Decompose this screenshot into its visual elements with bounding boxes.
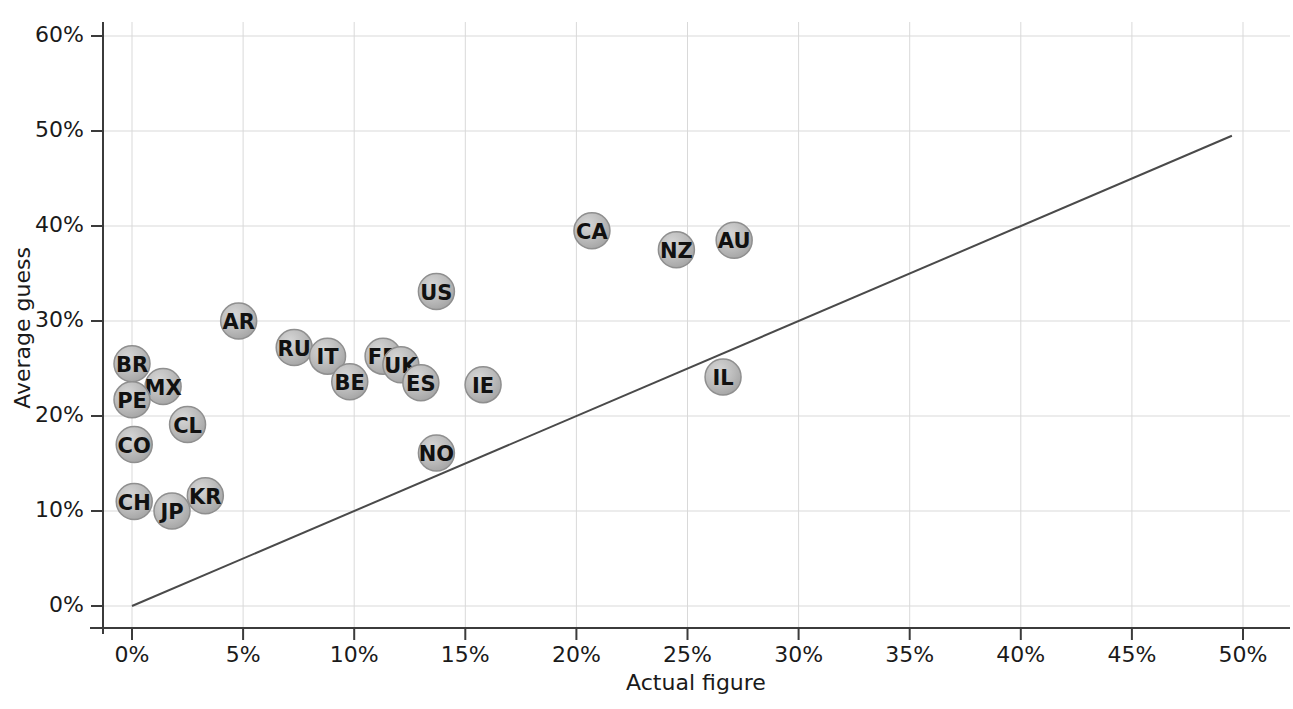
x-tick-label: 50% xyxy=(1219,642,1268,667)
data-point[interactable]: NO xyxy=(418,435,454,471)
data-point-label: AU xyxy=(718,229,751,253)
x-tick-marks xyxy=(132,628,1243,640)
data-point-label: CH xyxy=(118,491,151,515)
x-tick-label: 30% xyxy=(774,642,823,667)
data-point[interactable]: CA xyxy=(574,213,610,249)
data-point-label: NO xyxy=(419,442,454,466)
x-tick-label: 35% xyxy=(885,642,934,667)
data-point[interactable]: PE xyxy=(114,382,150,418)
data-point-label: PE xyxy=(117,389,147,413)
data-point-label: IE xyxy=(472,374,494,398)
data-point[interactable]: KR xyxy=(187,478,223,514)
y-axis-title: Average guess xyxy=(10,247,35,409)
data-point[interactable]: BE xyxy=(332,364,368,400)
x-tick-label: 15% xyxy=(441,642,490,667)
y-tick-label: 10% xyxy=(35,497,84,522)
data-point-label: CL xyxy=(173,414,202,438)
x-tick-label: 5% xyxy=(226,642,261,667)
y-tick-marks xyxy=(91,36,103,606)
data-point-label: CA xyxy=(576,220,608,244)
data-point[interactable]: CO xyxy=(116,427,152,463)
data-point[interactable]: RU xyxy=(276,330,312,366)
data-point[interactable]: ES xyxy=(403,365,439,401)
data-point-label: RU xyxy=(278,337,311,361)
data-point[interactable]: AU xyxy=(716,222,752,258)
data-point-label: AR xyxy=(222,310,254,334)
y-tick-label: 50% xyxy=(35,117,84,142)
data-point[interactable]: IL xyxy=(705,359,741,395)
data-point-label: IT xyxy=(316,345,339,369)
data-point[interactable]: NZ xyxy=(658,232,694,268)
plot-area: 0%10%20%30%40%50%60% 0%5%10%15%20%25%30%… xyxy=(0,0,1293,709)
data-point[interactable]: CH xyxy=(116,484,152,520)
x-tick-labels: 0%5%10%15%20%25%30%35%40%45%50% xyxy=(115,642,1268,667)
data-point-label: JP xyxy=(158,500,183,524)
data-point-label: IL xyxy=(712,366,733,390)
data-point-markers: BRMXPECLCOCHKRJPARRUITBEFRUKESUSNOIECANZ… xyxy=(114,213,752,529)
y-tick-label: 30% xyxy=(35,307,84,332)
y-tick-label: 0% xyxy=(49,592,84,617)
x-tick-label: 40% xyxy=(996,642,1045,667)
chart-root: 0%10%20%30%40%50%60% 0%5%10%15%20%25%30%… xyxy=(0,0,1293,709)
data-point-label: BR xyxy=(116,353,148,377)
x-axis-title: Actual figure xyxy=(626,670,766,695)
data-point[interactable]: CL xyxy=(170,407,206,443)
y-gridlines xyxy=(103,36,1290,606)
x-tick-label: 0% xyxy=(115,642,150,667)
data-point[interactable]: JP xyxy=(154,493,190,529)
y-tick-label: 40% xyxy=(35,212,84,237)
data-point[interactable]: AR xyxy=(221,303,257,339)
y-tick-label: 20% xyxy=(35,402,84,427)
identity-reference-line xyxy=(132,136,1232,606)
data-point-label: NZ xyxy=(660,239,693,263)
y-tick-label: 60% xyxy=(35,22,84,47)
x-tick-label: 25% xyxy=(663,642,712,667)
scatter-chart-svg: 0%10%20%30%40%50%60% 0%5%10%15%20%25%30%… xyxy=(0,0,1293,709)
x-gridlines xyxy=(132,22,1243,628)
data-point-label: CO xyxy=(118,434,151,458)
x-tick-label: 45% xyxy=(1107,642,1156,667)
x-tick-label: 10% xyxy=(330,642,379,667)
data-point[interactable]: US xyxy=(418,274,454,310)
data-point-label: ES xyxy=(406,372,435,396)
y-tick-labels: 0%10%20%30%40%50%60% xyxy=(35,22,84,617)
x-tick-label: 20% xyxy=(552,642,601,667)
data-point-label: BE xyxy=(335,371,365,395)
data-point-label: US xyxy=(420,281,452,305)
data-point-label: KR xyxy=(189,485,221,509)
data-point[interactable]: IE xyxy=(465,367,501,403)
